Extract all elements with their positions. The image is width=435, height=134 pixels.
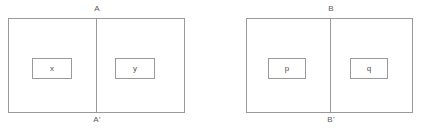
figure-left: A x y A' — [0, 0, 218, 134]
axis-bottom-label-b-prime: B' — [319, 115, 343, 125]
inner-box-x-label: x — [50, 65, 54, 73]
axis-divider-line-left — [96, 18, 97, 113]
inner-box-x: x — [32, 58, 72, 79]
axis-bottom-label-a-prime: A' — [85, 115, 109, 125]
figure-right: B p q B' — [218, 0, 435, 134]
inner-box-q-label: q — [367, 65, 371, 73]
inner-box-p-label: p — [285, 65, 289, 73]
inner-box-y-label: y — [133, 65, 137, 73]
axis-divider-line-right — [330, 18, 331, 113]
inner-box-p: p — [268, 58, 306, 79]
axis-top-label-a: A — [85, 4, 109, 14]
axis-top-label-b: B — [319, 4, 343, 14]
inner-box-q: q — [350, 58, 388, 79]
inner-box-y: y — [115, 58, 155, 79]
diagram-canvas: A x y A' B p q B' — [0, 0, 435, 134]
